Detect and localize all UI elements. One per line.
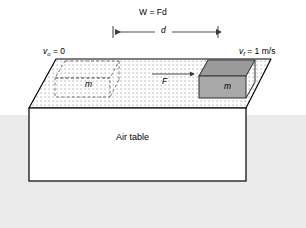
work-equation-label: W = Fd	[139, 8, 167, 17]
initial-velocity-label: vo = 0	[43, 47, 65, 56]
air-table-label: Air table	[116, 133, 149, 142]
initial-velocity-subscript: o	[47, 51, 50, 57]
work-energy-diagram	[0, 0, 306, 228]
distance-label: d	[161, 26, 166, 35]
final-velocity-subscript: f	[243, 51, 245, 57]
final-velocity-value: = 1 m/s	[247, 46, 275, 56]
mass-label-initial: m	[85, 80, 92, 89]
initial-velocity-value: = 0	[53, 46, 65, 56]
final-velocity-label: vf = 1 m/s	[239, 47, 275, 56]
block-front-face	[199, 76, 246, 98]
mass-label-final: m	[224, 82, 231, 91]
force-label: F	[162, 77, 167, 86]
table-front-face	[29, 108, 246, 181]
block-top-face	[199, 60, 255, 76]
